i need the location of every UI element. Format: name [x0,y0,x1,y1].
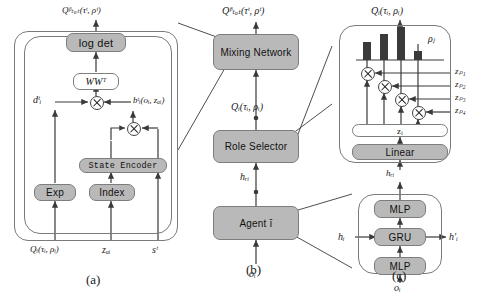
panel-a-input-state-label: sᵗ [152,244,158,255]
caption-a: (a) [86,272,100,288]
multiply-node-bottom [127,122,141,136]
figure-canvas: Qᵝₜₒₜ(τᵗ, ρᵗ) log det WWᵀ dᵗᵢ bᵗᵢ(oᵢ, zₐ… [0,0,486,296]
caption-b: (b) [246,262,261,278]
wwt-box[interactable]: WWᵀ [73,73,119,90]
role-multiply-node-3 [395,93,409,107]
hidden-out-label: h′ᵢ [449,231,458,242]
gru-box[interactable]: GRU [374,228,426,246]
utility-bar [363,42,371,60]
exp-box[interactable]: Exp [34,184,76,201]
zp-label-2: zₚ₂ [455,79,466,89]
utility-bar [380,34,388,60]
rho-label: ρⱼ [428,33,435,44]
utility-bar [414,51,422,60]
panel-a-inner-outline [24,36,172,234]
d-term-label: dᵗᵢ [33,94,41,105]
zp-label-3: zₚ₃ [455,92,466,102]
role-multiply-node-2 [378,80,392,94]
panel-b-htau-label: hᵣᵢ [240,171,249,182]
panel-a-output-label: Qᵝₜₒₜ(τᵗ, ρᵗ) [62,5,101,15]
role-multiply-node-4 [412,106,426,120]
panel-b-output-label: Qᵝₜₒₜ(τᵗ, ρᵗ) [222,5,264,16]
utility-bar [397,27,405,60]
zi-box[interactable]: zᵢ [352,124,448,137]
panel-b-qi-label: Qᵢ(τᵢ, ρᵢ) [231,101,263,112]
log-det-box[interactable]: log det [66,33,126,52]
panel-c-htau-label: hᵣᵢ [386,168,394,178]
panel-c-output-label: Qᵢ(τᵢ, ρᵢ) [371,5,403,16]
panel-a-input-za-label: zₐᵢ [102,244,110,255]
zp-label-4: zₚ₄ [455,105,466,115]
index-box[interactable]: Index [89,184,135,201]
panel-c-role-outline [339,25,451,163]
multiply-node-top [90,96,104,110]
zp-label-1: zₚ₁ [455,66,466,76]
role-selector-box[interactable]: Role Selector [213,130,299,163]
b-term-label: bᵗᵢ(oᵢ, zₐᵢ) [133,95,164,105]
agent-box[interactable]: Agent ī [213,206,299,240]
panel-a-input-q-label: Qᵢ(τᵢ, ρᵢ) [30,244,59,254]
mixing-network-box[interactable]: Mixing Network [213,34,299,70]
caption-c: (c) [392,268,406,284]
linear-box[interactable]: Linear [352,144,448,160]
role-multiply-node-1 [361,67,375,81]
mlp-top-box[interactable]: MLP [374,200,426,218]
state-encoder-box[interactable]: State Encoder [79,158,167,173]
hidden-in-label: hᵢ [338,231,345,242]
